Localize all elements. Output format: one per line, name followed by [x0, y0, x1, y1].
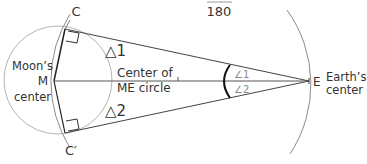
moon-earth-geometry-diagram: 180 C C′ M E Moon’s center Earth’s cente… [0, 0, 367, 164]
segment-mc-prime [54, 81, 65, 133]
fraction-denominator: 180 [207, 4, 232, 19]
point-m-label: M [38, 74, 48, 88]
earth-center-label-line2: center [326, 83, 363, 97]
me-center-label-line1: Center of [117, 66, 174, 80]
me-circle-right-arc [287, 10, 311, 154]
point-c-label: C [71, 4, 80, 19]
right-angle-c [66, 31, 79, 43]
angle-1-label: ∠1 [234, 69, 249, 80]
triangle-2-label: △2 [105, 102, 126, 120]
moon-circle [4, 26, 112, 134]
triangle-1-label: △1 [105, 42, 126, 60]
segment-mc [54, 29, 65, 81]
me-center-label-line2: ME circle [117, 81, 171, 95]
segment-ce [65, 29, 309, 81]
moon-center-label-line2: center [14, 90, 51, 104]
segment-c-prime-e [65, 81, 309, 133]
angle-2-label: ∠2 [234, 84, 249, 95]
point-e-label: E [313, 75, 321, 89]
point-c-prime-label: C′ [65, 143, 77, 158]
right-angle-c-prime [66, 119, 79, 131]
earth-center-label-line1: Earth’s [326, 70, 367, 84]
moon-center-label-line1: Moon’s [12, 59, 53, 73]
